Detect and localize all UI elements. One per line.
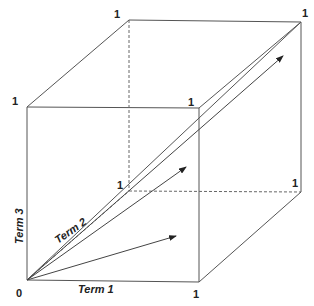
vector-arrow-c: [27, 56, 283, 280]
label-back-bottom-left: 1: [117, 179, 123, 191]
back-top-edge: [129, 20, 301, 22]
top-left-depth-edge: [27, 20, 129, 107]
label-front-bottom-right: 1: [193, 288, 199, 300]
back-bottom-hidden-edge: [129, 191, 301, 192]
vector-arrow-a: [27, 236, 176, 280]
document-vectors: [27, 56, 283, 280]
bottom-right-depth-edge: [199, 192, 301, 282]
vector-arrow-b: [27, 167, 186, 280]
label-back-top-left: 1: [114, 8, 120, 20]
vertex-labels: 1 1 1 1 1 1 1 0: [12, 7, 308, 300]
axis-label-term3: Term 3: [13, 208, 25, 244]
label-front-top-right: 1: [188, 96, 194, 108]
term1-axis-line: [27, 280, 199, 282]
axis-label-term1: Term 1: [78, 283, 114, 295]
front-top-edge: [27, 107, 199, 108]
top-right-depth-edge: [199, 22, 301, 108]
term-vector-cube-diagram: 1 1 1 1 1 1 1 0 Term 1 Term 3 Term 2: [0, 0, 314, 306]
label-origin: 0: [16, 287, 22, 299]
cube-main-diagonal: [27, 22, 301, 280]
label-back-bottom-right: 1: [292, 177, 298, 189]
label-front-top-left: 1: [12, 95, 18, 107]
label-back-top-right: 1: [302, 7, 308, 19]
